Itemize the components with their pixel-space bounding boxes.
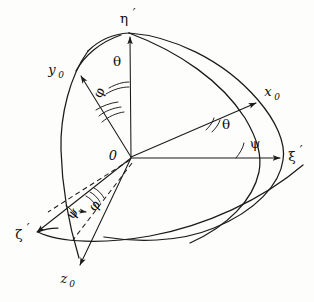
- label-y0: y: [47, 62, 56, 77]
- label-zeta-prime-mark: ′: [27, 222, 30, 236]
- label-phi-lower: φ: [85, 196, 103, 214]
- sphere-outline-left-limb: [61, 51, 88, 258]
- label-eta-prime-mark: ′: [133, 7, 136, 21]
- label-x0: x: [264, 84, 272, 99]
- label-theta-right: θ: [222, 116, 230, 132]
- ray-y0: [81, 76, 131, 157]
- label-theta-upper: θ: [113, 53, 121, 69]
- diagram-canvas: 0 η ′ y 0 x 0 ξ ′ ζ ′ z 0 θ φ θ ψ ψ φ: [0, 0, 314, 302]
- label-xi-prime: ξ: [288, 148, 295, 164]
- arc-psi-right-1: [236, 143, 244, 158]
- arc-phi-left-3: [102, 112, 124, 122]
- label-y0-subscript: 0: [58, 70, 64, 80]
- label-psi-right: ψ: [250, 135, 261, 151]
- label-eta-prime: η: [120, 10, 128, 26]
- ray-x0: [131, 103, 256, 157]
- label-zeta-prime: ζ: [15, 226, 22, 242]
- ray-eta-prime: [130, 37, 131, 157]
- label-z0: z: [60, 271, 68, 286]
- sphere-outline-top-left: [88, 33, 129, 51]
- label-x0-subscript: 0: [274, 92, 280, 102]
- label-phi-left: φ: [89, 84, 108, 100]
- euler-angle-diagram: 0 η ′ y 0 x 0 ξ ′ ζ ′ z 0 θ φ θ ψ ψ φ: [0, 0, 314, 302]
- ray-z0: [80, 158, 131, 265]
- meridian-arc-x0: [129, 33, 260, 243]
- ray-zeta-prime: [37, 158, 131, 232]
- arc-psi-lower-pointer: [79, 211, 86, 212]
- label-origin: 0: [109, 148, 117, 163]
- label-xi-prime-mark: ′: [300, 144, 303, 158]
- equator-arc: [38, 165, 303, 241]
- label-psi-lower: ψ: [62, 204, 81, 222]
- label-z0-subscript: 0: [69, 279, 75, 289]
